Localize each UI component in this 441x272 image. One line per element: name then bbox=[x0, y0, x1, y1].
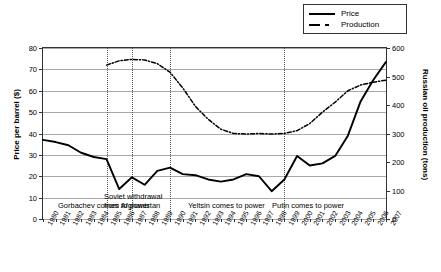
y-axis-left-tick-label: 20 bbox=[11, 176, 37, 185]
x-axis-tick-mark bbox=[170, 219, 171, 222]
annotation-label: Putin comes to power bbox=[272, 201, 344, 210]
y-axis-left-tick-label: 60 bbox=[11, 91, 37, 100]
x-axis-tick-mark bbox=[335, 219, 336, 222]
x-axis-tick-mark bbox=[94, 219, 95, 222]
x-axis-tick-mark bbox=[56, 219, 57, 222]
x-axis-tick-mark bbox=[43, 219, 44, 222]
y-axis-left-tick-mark bbox=[39, 91, 42, 92]
x-axis-tick-mark bbox=[322, 219, 323, 222]
x-axis-tick-mark bbox=[348, 219, 349, 222]
x-axis-tick-mark bbox=[107, 219, 108, 222]
price-line-icon bbox=[308, 9, 336, 19]
y-axis-right-tick-label: 300 bbox=[392, 134, 422, 143]
y-axis-right-tick-label: 400 bbox=[392, 105, 422, 114]
annotation-label: from Afghanistan bbox=[104, 201, 160, 210]
price-series-line bbox=[43, 62, 386, 191]
x-axis-tick-mark bbox=[246, 219, 247, 222]
legend-item-price: Price bbox=[308, 8, 402, 19]
legend-label-production: Production bbox=[341, 20, 379, 29]
y-axis-left-tick-label: 50 bbox=[11, 112, 37, 121]
x-axis-tick-mark bbox=[373, 219, 374, 222]
x-axis-tick-mark bbox=[183, 219, 184, 222]
legend-item-production: Production bbox=[308, 19, 402, 30]
x-axis-tick-mark bbox=[234, 219, 235, 222]
x-axis-tick-mark bbox=[68, 219, 69, 222]
y-axis-left-tick-mark bbox=[39, 176, 42, 177]
y-axis-right-tick-label: 200 bbox=[392, 162, 422, 171]
x-axis-tick-mark bbox=[208, 219, 209, 222]
y-axis-left-tick-label: 0 bbox=[11, 219, 37, 228]
x-axis-tick-mark bbox=[132, 219, 133, 222]
x-axis-tick-mark bbox=[81, 219, 82, 222]
y-axis-left-tick-mark bbox=[39, 198, 42, 199]
x-axis-tick-mark bbox=[297, 219, 298, 222]
production-series-line bbox=[107, 59, 386, 134]
y-axis-left-tick-label: 10 bbox=[11, 198, 37, 207]
y-axis-right-tick-mark bbox=[387, 105, 390, 106]
y-axis-left-tick-label: 40 bbox=[11, 134, 37, 143]
chart-figure: Price per barrel ($) Russian oil product… bbox=[0, 0, 441, 272]
y-axis-left-tick-label: 30 bbox=[11, 155, 37, 164]
series-layer bbox=[43, 48, 386, 219]
x-axis-tick-mark bbox=[119, 219, 120, 222]
y-axis-right-tick-mark bbox=[387, 134, 390, 135]
x-axis-tick-mark bbox=[361, 219, 362, 222]
plot-area bbox=[42, 47, 387, 220]
y-axis-left-tick-mark bbox=[39, 155, 42, 156]
y-axis-left-tick-label: 80 bbox=[11, 48, 37, 57]
production-line-icon bbox=[308, 20, 336, 30]
x-axis-tick-mark bbox=[272, 219, 273, 222]
x-axis-tick-mark bbox=[259, 219, 260, 222]
x-axis-tick-mark bbox=[310, 219, 311, 222]
y-axis-right-tick-mark bbox=[387, 191, 390, 192]
y-axis-right-tick-mark bbox=[387, 48, 390, 49]
y-axis-left-tick-mark bbox=[39, 48, 42, 49]
y-axis-right-tick-mark bbox=[387, 162, 390, 163]
x-axis-tick-mark bbox=[195, 219, 196, 222]
y-axis-left-title: Price per barrel ($) bbox=[12, 65, 21, 185]
legend: Price Production bbox=[303, 4, 407, 34]
y-axis-left-tick-mark bbox=[39, 112, 42, 113]
annotation-label: Yeltsin comes to power bbox=[188, 201, 265, 210]
x-axis-tick-mark bbox=[386, 219, 387, 222]
y-axis-right-tick-label: 100 bbox=[392, 191, 422, 200]
y-axis-left-tick-mark bbox=[39, 134, 42, 135]
y-axis-left-tick-mark bbox=[39, 219, 42, 220]
y-axis-right-tick-label: 500 bbox=[392, 77, 422, 86]
y-axis-left-tick-mark bbox=[39, 69, 42, 70]
y-axis-left-tick-label: 70 bbox=[11, 69, 37, 78]
legend-label-price: Price bbox=[341, 9, 359, 18]
annotation-label: Soviet withdrawal bbox=[104, 192, 162, 201]
x-axis-tick-mark bbox=[221, 219, 222, 222]
x-axis-tick-mark bbox=[157, 219, 158, 222]
x-axis-tick-mark bbox=[284, 219, 285, 222]
x-axis-tick-mark bbox=[145, 219, 146, 222]
y-axis-right-tick-mark bbox=[387, 77, 390, 78]
y-axis-right-tick-label: 600 bbox=[392, 48, 422, 57]
